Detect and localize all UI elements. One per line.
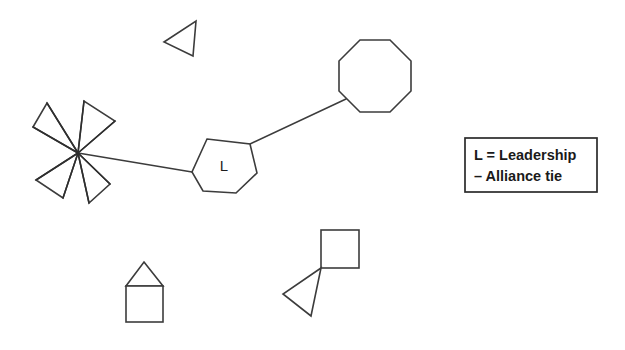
octagon-node[interactable] [339, 40, 411, 112]
pinwheel-cluster-node[interactable] [33, 101, 115, 203]
legend: L = Leadership – Alliance tie [465, 138, 597, 192]
leadership-hexagon-node[interactable]: L [192, 139, 257, 193]
hexagon-leadership-label: L [220, 157, 228, 174]
square-triangle-node[interactable] [283, 230, 359, 316]
legend-entry-leadership: L = Leadership [474, 147, 577, 163]
alliance-tie-hexagon-octagon [250, 99, 346, 144]
house-roof-triangle [126, 262, 163, 286]
legend-entry-alliance-tie: – Alliance tie [474, 168, 562, 184]
square-shape [321, 230, 359, 268]
triangle-shape [164, 21, 196, 56]
attached-triangle-shape [283, 268, 321, 316]
pinwheel-triangle-upper-left [33, 103, 78, 153]
octagon-shape [339, 40, 411, 112]
house-node[interactable] [126, 262, 163, 322]
house-square-base [126, 286, 163, 322]
network-diagram: L L = Leadership – Alliance tie [0, 0, 625, 350]
lone-triangle-node[interactable] [164, 21, 196, 56]
diagram-canvas: L L = Leadership – Alliance tie [0, 0, 625, 350]
